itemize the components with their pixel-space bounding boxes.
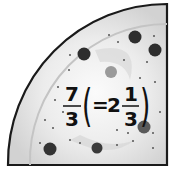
open-paren: (: [82, 80, 92, 131]
whole-number: 2: [107, 93, 121, 117]
improper-denominator: 3: [65, 107, 79, 131]
improper-numerator: 7: [65, 82, 79, 106]
topping-olive: [44, 143, 57, 156]
topping-olive: [149, 44, 162, 57]
topping-olive: [78, 48, 91, 61]
topping-olive: [92, 143, 103, 154]
mixed-numerator: 1: [124, 82, 138, 106]
topping-mushroom: [105, 66, 117, 78]
close-paren: ): [140, 80, 150, 131]
mixed-denominator: 3: [124, 107, 138, 131]
topping-olive: [129, 31, 142, 44]
